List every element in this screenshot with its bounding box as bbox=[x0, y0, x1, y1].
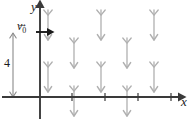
field-arrow bbox=[44, 62, 52, 92]
initial-velocity-label: v0 bbox=[17, 20, 26, 35]
field-arrow bbox=[150, 62, 158, 92]
field-arrow bbox=[97, 10, 105, 40]
field-arrow bbox=[70, 86, 78, 116]
y-axis-label: y bbox=[31, 0, 37, 13]
arrow-field-group bbox=[44, 10, 158, 116]
field-arrow bbox=[44, 10, 52, 40]
field-arrow bbox=[97, 62, 105, 92]
field-arrow bbox=[123, 86, 131, 116]
figure-canvas bbox=[0, 0, 193, 119]
velocity-field-figure: y x → v0 4 bbox=[0, 0, 193, 119]
field-arrow bbox=[123, 38, 131, 68]
initial-velocity-subscript: 0 bbox=[22, 26, 26, 35]
height-value-label: 4 bbox=[4, 57, 10, 69]
field-arrow bbox=[150, 10, 158, 40]
axes-group bbox=[2, 0, 187, 119]
field-arrow bbox=[70, 38, 78, 68]
height-measure-bracket bbox=[10, 33, 16, 97]
x-axis-label: x bbox=[181, 95, 187, 108]
